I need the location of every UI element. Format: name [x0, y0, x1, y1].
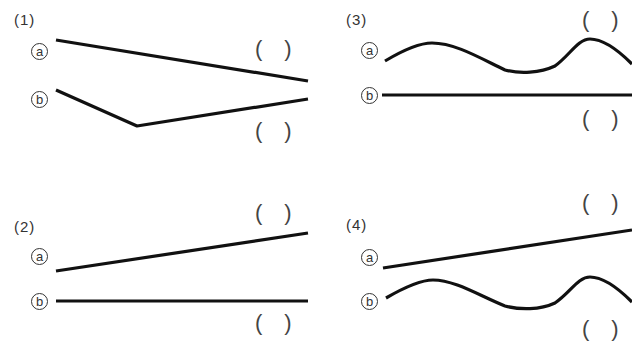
- p4-line-b: [386, 277, 632, 309]
- p1-answer-a-blank[interactable]: (): [255, 36, 292, 62]
- p4-answer-a-blank[interactable]: (): [582, 190, 619, 216]
- p2-circle-b: b: [31, 293, 48, 310]
- p4-circle-b: b: [361, 293, 378, 310]
- problem-4-label: (4): [346, 216, 367, 233]
- p2-answer-b-blank[interactable]: (): [255, 310, 292, 336]
- diagram-canvas: [0, 0, 632, 343]
- p3-circle-a: a: [361, 42, 378, 59]
- p1-answer-b-blank[interactable]: (): [255, 118, 292, 144]
- p2-answer-a-blank[interactable]: (): [255, 200, 292, 226]
- problem-3-label: (3): [346, 11, 367, 28]
- problem-2-label: (2): [14, 218, 35, 235]
- p3-line-a: [385, 39, 632, 72]
- p1-circle-b: b: [31, 91, 48, 108]
- p3-circle-b: b: [361, 87, 378, 104]
- p4-circle-a: a: [361, 249, 378, 266]
- p1-circle-a: a: [31, 43, 48, 60]
- p2-circle-a: a: [31, 248, 48, 265]
- p3-answer-a-blank[interactable]: (): [582, 7, 619, 33]
- p2-line-a: [56, 233, 308, 271]
- p4-answer-b-blank[interactable]: (): [582, 316, 619, 342]
- p3-answer-b-blank[interactable]: (): [582, 106, 619, 132]
- problem-1-label: (1): [14, 11, 35, 28]
- p4-line-a: [383, 230, 632, 268]
